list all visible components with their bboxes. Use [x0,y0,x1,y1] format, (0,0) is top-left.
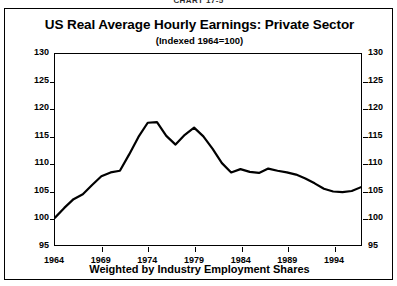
chart-footnote: Weighted by Industry Employment Shares [5,263,394,275]
y-axis-label-right-110: 110 [368,157,383,167]
y-axis-label-right-125: 125 [368,75,383,85]
y-axis-label-right-95: 95 [368,240,378,250]
y-axis-left-labels: 13012512011511010510095 [19,9,49,281]
y-axis-right-labels: 13012512011511010510095 [368,9,394,281]
y-axis-label-left-95: 95 [39,240,49,250]
y-axis-label-right-120: 120 [368,102,383,112]
y-axis-label-right-105: 105 [368,185,383,195]
y-axis-label-left-110: 110 [34,157,49,167]
y-axis-label-right-100: 100 [368,212,383,222]
y-axis-label-left-120: 120 [34,102,49,112]
y-axis-label-left-125: 125 [34,75,49,85]
y-axis-label-left-130: 130 [34,47,49,57]
y-axis-label-left-105: 105 [34,185,49,195]
figure-frame: US Real Average Hourly Earnings: Private… [4,8,393,280]
y-axis-label-right-130: 130 [368,47,383,57]
x-axis-labels: 1964196919741979198419891994 [54,9,362,281]
chart-number-header: CHART 17-5 [0,0,397,4]
y-axis-label-left-100: 100 [34,212,49,222]
y-axis-label-right-115: 115 [368,130,383,140]
y-axis-label-left-115: 115 [34,130,49,140]
